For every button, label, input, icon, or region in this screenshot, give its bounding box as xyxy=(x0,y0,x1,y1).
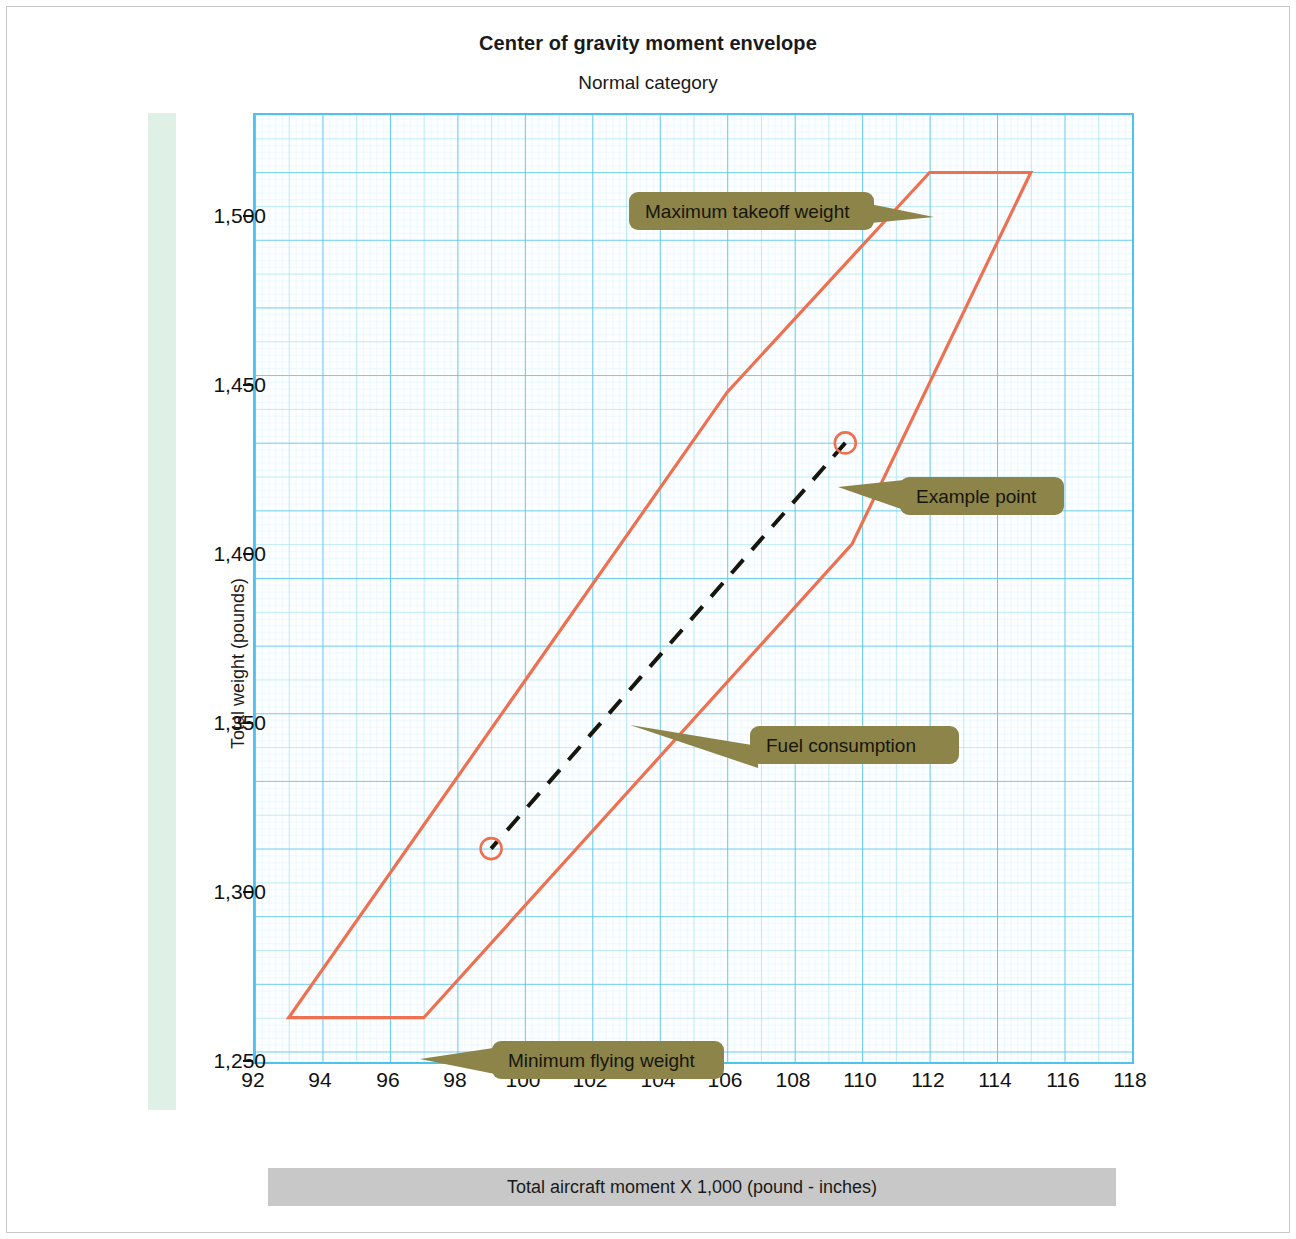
fuel-consumption-callout-tail xyxy=(630,722,770,772)
y-axis-band: Total weight (pounds) xyxy=(148,113,176,1110)
x-tick-label-92: 92 xyxy=(223,1068,283,1092)
minimum-flying-weight-callout: Minimum flying weight xyxy=(492,1041,724,1079)
cg-envelope-polygon xyxy=(289,173,1031,1018)
y-tick-label-1450: 1,450 xyxy=(186,373,266,397)
page-title: Center of gravity moment envelope xyxy=(0,32,1296,55)
example-point-callout-label: Example point xyxy=(916,487,1036,506)
y-tick-label-1500: 1,500 xyxy=(186,204,266,228)
example-point-callout: Example point xyxy=(900,477,1064,515)
y-tick-mark xyxy=(243,215,253,217)
x-tick-label-110: 110 xyxy=(830,1068,890,1092)
y-tick-label-1300: 1,300 xyxy=(186,880,266,904)
x-tick-label-112: 112 xyxy=(898,1068,958,1092)
plot-area xyxy=(253,113,1134,1064)
y-tick-mark xyxy=(243,1060,253,1062)
y-tick-mark xyxy=(243,553,253,555)
max-takeoff-weight-callout: Maximum takeoff weight xyxy=(629,192,874,230)
x-tick-label-118: 118 xyxy=(1100,1068,1160,1092)
minimum-flying-weight-callout-label: Minimum flying weight xyxy=(508,1051,695,1070)
fuel-consumption-callout: Fuel consumption xyxy=(750,726,959,764)
series-layer xyxy=(255,115,1132,1062)
x-tick-label-96: 96 xyxy=(358,1068,418,1092)
y-tick-mark xyxy=(243,384,253,386)
fuel-consumption-callout-label: Fuel consumption xyxy=(766,736,916,755)
y-tick-label-1350: 1,350 xyxy=(186,711,266,735)
x-axis-title: Total aircraft moment X 1,000 (pound - i… xyxy=(268,1168,1116,1206)
chart-page: Center of gravity moment envelope Normal… xyxy=(0,0,1296,1239)
fuel-consumption-line xyxy=(491,443,845,849)
chart-subtitle: Normal category xyxy=(0,72,1296,94)
x-tick-label-114: 114 xyxy=(965,1068,1025,1092)
x-tick-label-94: 94 xyxy=(290,1068,350,1092)
x-tick-label-116: 116 xyxy=(1033,1068,1093,1092)
max-takeoff-weight-callout-label: Maximum takeoff weight xyxy=(645,202,850,221)
y-tick-mark xyxy=(243,891,253,893)
x-tick-label-108: 108 xyxy=(763,1068,823,1092)
y-tick-label-1400: 1,400 xyxy=(186,542,266,566)
y-tick-mark xyxy=(243,722,253,724)
